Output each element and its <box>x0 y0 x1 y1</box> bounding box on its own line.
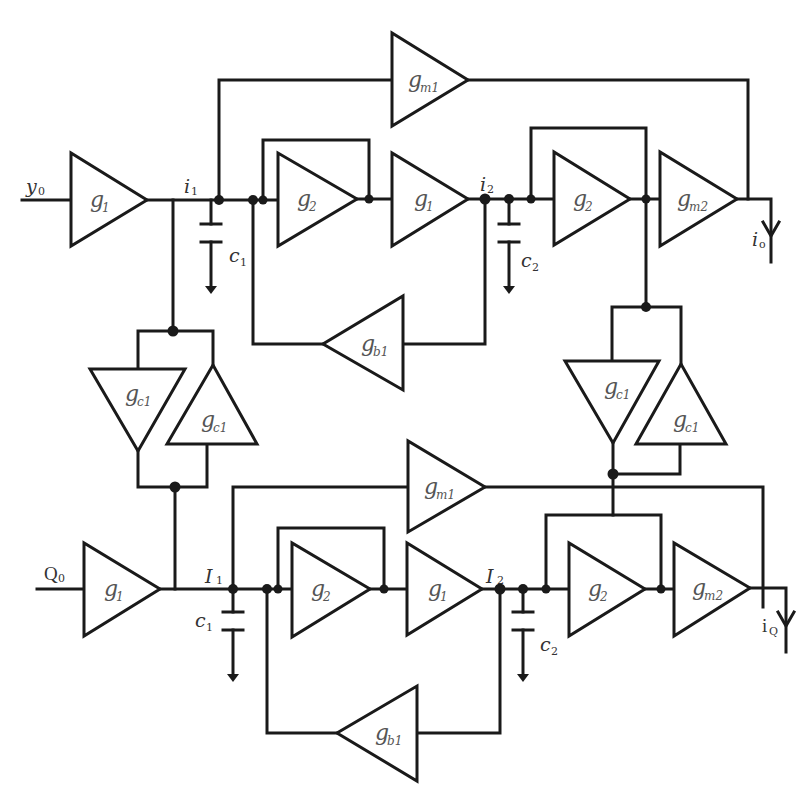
block-gm2-bottom: g m2 <box>674 543 750 636</box>
svg-text:i: i <box>752 228 758 250</box>
svg-text:m2: m2 <box>704 589 723 603</box>
svg-text:0: 0 <box>38 185 45 198</box>
label-y0: y 0 <box>25 175 45 198</box>
block-g2-b-bottom: g 2 <box>569 543 645 636</box>
svg-text:m1: m1 <box>436 488 455 502</box>
svg-text:I: I <box>204 565 213 587</box>
svg-text:1: 1 <box>240 256 247 269</box>
svg-text:i: i <box>184 175 190 197</box>
svg-text:2: 2 <box>322 590 331 604</box>
svg-text:2: 2 <box>599 590 608 604</box>
block-g1-mid-bottom: g 1 <box>407 543 482 635</box>
svg-text:c: c <box>521 249 532 271</box>
svg-text:1: 1 <box>426 200 434 214</box>
block-g2-a-top: g 2 <box>278 153 357 246</box>
svg-text:m1: m1 <box>420 81 439 95</box>
svg-text:c1: c1 <box>685 421 699 435</box>
svg-text:2: 2 <box>497 574 504 587</box>
svg-text:1: 1 <box>191 185 198 198</box>
svg-text:1: 1 <box>116 590 124 604</box>
svg-text:i: i <box>480 173 486 195</box>
label-c1-top: c 1 <box>229 244 247 269</box>
svg-text:c1: c1 <box>213 421 227 435</box>
svg-text:c1: c1 <box>137 395 151 409</box>
svg-text:c1: c1 <box>616 388 630 402</box>
svg-text:2: 2 <box>308 200 317 214</box>
svg-text:2: 2 <box>584 200 593 214</box>
label-q0: Q 0 <box>44 563 65 585</box>
svg-text:1: 1 <box>206 621 213 634</box>
block-g1-in-bottom: g 1 <box>84 543 160 636</box>
block-g2-b-top: g 2 <box>554 152 630 245</box>
svg-text:o: o <box>759 238 766 251</box>
block-gb1-bottom: g b1 <box>337 686 417 781</box>
svg-text:i: i <box>762 615 767 636</box>
label-I2: I 2 <box>485 565 504 587</box>
label-iq: i Q <box>762 615 778 638</box>
label-i1: i 1 <box>184 175 198 198</box>
svg-text:m2: m2 <box>689 200 708 214</box>
label-c1-bottom: c 1 <box>195 609 213 634</box>
block-gm1-top: g m1 <box>392 33 468 126</box>
block-g1-mid-top: g 1 <box>392 153 468 246</box>
block-g1-in-top: g 1 <box>71 153 147 246</box>
svg-text:c: c <box>195 609 206 631</box>
label-c2-bottom: c 2 <box>540 633 558 658</box>
label-I1: I 1 <box>204 565 223 587</box>
svg-text:1: 1 <box>102 201 110 215</box>
svg-text:2: 2 <box>551 645 558 658</box>
block-g2-a-bottom: g 2 <box>292 543 370 637</box>
svg-text:y: y <box>25 175 37 197</box>
label-io: i o <box>752 228 766 251</box>
svg-text:b1: b1 <box>373 345 388 359</box>
svg-text:1: 1 <box>216 574 223 587</box>
svg-text:2: 2 <box>532 261 539 274</box>
block-gb1-top: g b1 <box>323 296 403 390</box>
svg-text:c: c <box>229 244 240 266</box>
svg-text:Q: Q <box>769 625 778 638</box>
svg-text:Q: Q <box>44 563 58 584</box>
svg-text:1: 1 <box>440 590 448 604</box>
svg-text:I: I <box>485 565 494 587</box>
svg-text:c: c <box>540 633 551 655</box>
label-i2: i 2 <box>480 173 494 196</box>
svg-text:2: 2 <box>487 183 494 196</box>
block-gm2-top: g m2 <box>660 152 737 246</box>
block-gm1-bottom: g m1 <box>408 441 485 532</box>
svg-text:b1: b1 <box>387 734 402 748</box>
label-c2-top: c 2 <box>521 249 539 274</box>
circuit-diagram: g 1 g 2 g 1 g 2 g m2 g m1 g b1 g c1 g c1 <box>0 0 810 802</box>
svg-text:0: 0 <box>58 572 65 585</box>
